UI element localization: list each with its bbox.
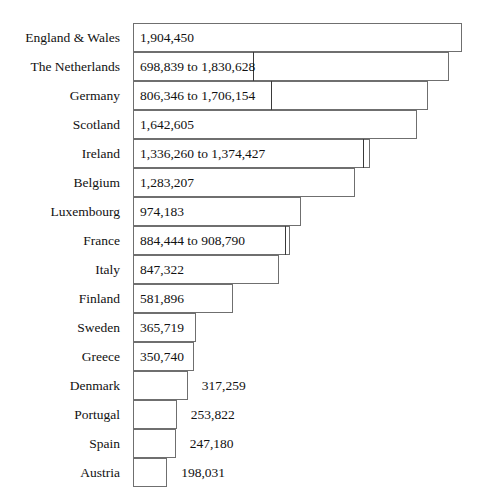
- bar-value-label: 1,283,207: [140, 168, 194, 197]
- category-label: Portugal: [0, 400, 120, 429]
- bar: [133, 371, 188, 400]
- category-label: Finland: [0, 284, 120, 313]
- chart-row: Finland581,896: [0, 284, 488, 313]
- bar-value-label: 350,740: [140, 342, 184, 371]
- category-label: Ireland: [0, 139, 120, 168]
- bar-value-label: 198,031: [181, 458, 225, 487]
- bar-value-label: 847,322: [140, 255, 184, 284]
- chart-row: France884,444 to 908,790: [0, 226, 488, 255]
- category-label: The Netherlands: [0, 52, 120, 81]
- bar: [133, 429, 176, 458]
- chart-row: Germany806,346 to 1,706,154: [0, 81, 488, 110]
- category-label: Italy: [0, 255, 120, 284]
- bar: [133, 400, 177, 429]
- category-label: Denmark: [0, 371, 120, 400]
- chart-row: Greece350,740: [0, 342, 488, 371]
- chart-row: Denmark317,259: [0, 371, 488, 400]
- bar-value-label: 317,259: [202, 371, 246, 400]
- chart-row: Scotland1,642,605: [0, 110, 488, 139]
- bar-value-label: 974,183: [140, 197, 184, 226]
- chart-row: Portugal253,822: [0, 400, 488, 429]
- chart-row: Sweden365,719: [0, 313, 488, 342]
- bar-value-label: 1,904,450: [140, 23, 194, 52]
- bar-value-label: 581,896: [140, 284, 184, 313]
- chart-row: Ireland1,336,260 to 1,374,427: [0, 139, 488, 168]
- chart-row: Austria198,031: [0, 458, 488, 487]
- category-label: Germany: [0, 81, 120, 110]
- chart-row: Belgium1,283,207: [0, 168, 488, 197]
- bar-value-label: 1,336,260 to 1,374,427: [140, 139, 265, 168]
- chart-row: Spain247,180: [0, 429, 488, 458]
- chart-row: The Netherlands698,839 to 1,830,628: [0, 52, 488, 81]
- category-label: England & Wales: [0, 23, 120, 52]
- bar-value-label: 884,444 to 908,790: [140, 226, 245, 255]
- category-label: France: [0, 226, 120, 255]
- category-label: Spain: [0, 429, 120, 458]
- chart-row: Italy847,322: [0, 255, 488, 284]
- chart-row: England & Wales1,904,450: [0, 23, 488, 52]
- horizontal-bar-chart: England & Wales1,904,450The Netherlands6…: [0, 0, 488, 502]
- bar-value-label: 806,346 to 1,706,154: [140, 81, 255, 110]
- category-label: Greece: [0, 342, 120, 371]
- bar: [133, 458, 167, 487]
- bar-value-label: 247,180: [190, 429, 234, 458]
- category-label: Sweden: [0, 313, 120, 342]
- bar-value-label: 698,839 to 1,830,628: [140, 52, 255, 81]
- category-label: Scotland: [0, 110, 120, 139]
- bar-value-label: 365,719: [140, 313, 184, 342]
- bar-value-label: 253,822: [191, 400, 235, 429]
- bar-value-label: 1,642,605: [140, 110, 194, 139]
- chart-row: Luxembourg974,183: [0, 197, 488, 226]
- category-label: Luxembourg: [0, 197, 120, 226]
- category-label: Austria: [0, 458, 120, 487]
- category-label: Belgium: [0, 168, 120, 197]
